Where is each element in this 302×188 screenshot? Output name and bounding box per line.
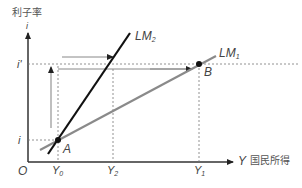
origin-label: O: [18, 165, 27, 177]
lm1-curve: [40, 56, 216, 150]
lm2-label: LM2: [135, 30, 156, 43]
lm2-curve: [48, 33, 130, 154]
x-axis-symbol: Y: [238, 155, 246, 167]
tick-y2: Y2: [107, 165, 118, 177]
y-axis-symbol: i: [26, 22, 28, 31]
x-axis-label: 国民所得: [250, 156, 290, 166]
y-axis-label: 利子率: [12, 8, 42, 18]
tick-i: i: [18, 135, 20, 146]
point-b-label: B: [204, 66, 212, 78]
point-b: [196, 61, 202, 67]
point-a-label: A: [63, 143, 71, 155]
tick-i-prime: i': [17, 59, 22, 70]
lm1-label: LM1: [219, 47, 240, 60]
tick-y0: Y0: [52, 165, 63, 177]
tick-y1: Y1: [194, 165, 205, 177]
point-a: [55, 137, 61, 143]
